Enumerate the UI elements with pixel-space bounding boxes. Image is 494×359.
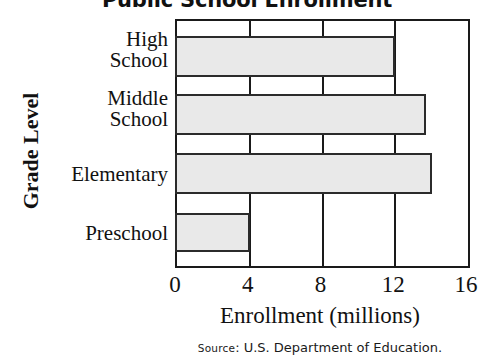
bar-preschool bbox=[175, 213, 250, 252]
x-tick-16: 16 bbox=[439, 272, 493, 298]
category-label-middle-school: Middle School bbox=[38, 88, 168, 130]
bar-middle-school bbox=[175, 94, 426, 135]
category-label-column: High School Middle School Elementary Pre… bbox=[38, 19, 171, 268]
x-tick-4: 4 bbox=[221, 272, 275, 298]
x-tick-12: 12 bbox=[366, 272, 420, 298]
source-note-prefix: Source bbox=[198, 342, 235, 354]
chart-title: Public School Enrollment bbox=[0, 0, 494, 12]
x-tick-0: 0 bbox=[148, 272, 202, 298]
bar-chart-figure: Public School Enrollment Grade Level Hig… bbox=[0, 0, 494, 359]
category-label-preschool: Preschool bbox=[38, 223, 168, 244]
category-label-high-school: High School bbox=[38, 29, 168, 71]
plot-area bbox=[175, 19, 470, 268]
x-tick-8: 8 bbox=[294, 272, 348, 298]
x-axis-tick-labels: 0 4 8 12 16 bbox=[175, 272, 470, 298]
x-axis-title: Enrollment (millions) bbox=[140, 303, 494, 329]
source-note: Source: U.S. Department of Education. bbox=[140, 340, 494, 355]
bar-elementary bbox=[175, 153, 432, 194]
source-note-separator: : bbox=[235, 340, 244, 355]
category-label-elementary: Elementary bbox=[38, 164, 168, 185]
source-note-text: U.S. Department of Education. bbox=[244, 340, 442, 355]
bar-high-school bbox=[175, 36, 395, 77]
